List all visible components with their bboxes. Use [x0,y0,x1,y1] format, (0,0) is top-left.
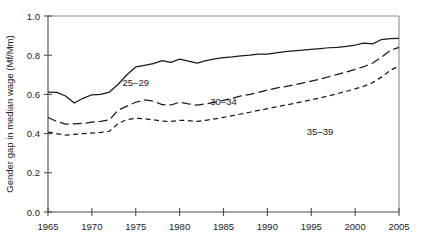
x-tick-label: 1975 [125,221,146,232]
series-label-25-29: 25–29 [123,77,149,88]
chart-figure: 0.00.20.40.60.81.0 196519701975198019851… [0,0,422,241]
y-tick-label: 0.8 [27,50,40,61]
series-label-30-34: 30–34 [210,96,236,107]
x-tick-label: 2000 [345,221,366,232]
y-axis-title: Gender gap in median wage (Mf/Mm) [4,35,15,192]
line-chart-canvas: 0.00.20.40.60.81.0 196519701975198019851… [0,0,422,241]
series-label-35-39: 35–39 [307,126,333,137]
x-tick-label: 1990 [257,221,278,232]
y-tick-label: 0.0 [27,207,40,218]
y-tick-label: 0.2 [27,167,40,178]
x-tick-label: 1970 [81,221,102,232]
x-tick-label: 1995 [301,221,322,232]
figure-background [0,0,422,241]
y-tick-label: 0.6 [27,89,40,100]
x-tick-label: 1965 [37,221,58,232]
y-tick-label: 0.4 [27,128,40,139]
y-tick-label: 1.0 [27,11,40,22]
x-tick-label: 1985 [213,221,234,232]
x-tick-label: 2005 [388,221,409,232]
x-tick-label: 1980 [169,221,190,232]
